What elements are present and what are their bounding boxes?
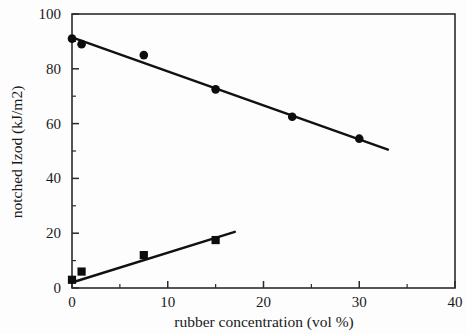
trend-line-circle <box>72 37 388 149</box>
chart-figure: 010203040 020406080100 rubber concentrat… <box>0 0 467 334</box>
data-point-square <box>140 251 148 259</box>
x-tick-label: 20 <box>256 294 271 310</box>
data-point-circle <box>355 134 364 143</box>
data-point-circle <box>211 85 220 94</box>
data-point-circle <box>77 40 86 49</box>
y-tick-label: 80 <box>46 61 61 77</box>
data-points <box>68 34 364 284</box>
y-tick-label: 60 <box>46 116 61 132</box>
trend-line-square <box>72 232 235 283</box>
data-point-circle <box>288 112 297 121</box>
y-tick-label: 20 <box>46 225 61 241</box>
data-point-circle <box>140 51 149 60</box>
data-point-circle <box>68 34 77 43</box>
y-tick-labels: 020406080100 <box>39 6 62 296</box>
x-tick-label: 30 <box>352 294 367 310</box>
y-axis-title: notched Izod (kJ/m2) <box>8 86 26 219</box>
data-point-square <box>68 276 76 284</box>
y-tick-label: 40 <box>46 170 61 186</box>
data-point-square <box>77 267 85 275</box>
data-point-square <box>212 236 220 244</box>
x-axis-title: rubber concentration (vol %) <box>174 313 353 331</box>
x-tick-label: 0 <box>68 294 76 310</box>
axis-ticks <box>72 14 455 288</box>
x-tick-labels: 010203040 <box>68 294 462 310</box>
y-tick-label: 100 <box>39 6 62 22</box>
plot-border <box>72 14 455 288</box>
plot-frame <box>72 14 455 288</box>
x-tick-label: 40 <box>448 294 463 310</box>
y-tick-label: 0 <box>54 280 62 296</box>
fit-lines <box>72 37 388 282</box>
scatter-plot-svg: 010203040 020406080100 rubber concentrat… <box>0 0 467 334</box>
x-tick-label: 10 <box>160 294 175 310</box>
